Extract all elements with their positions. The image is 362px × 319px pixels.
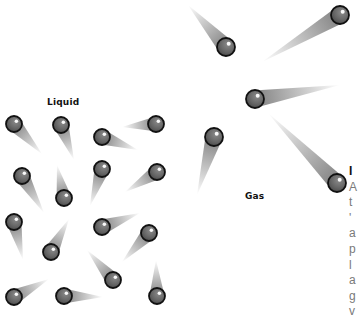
liquid-particle bbox=[56, 165, 72, 206]
liquid-particle bbox=[94, 129, 138, 150]
highlight-glint bbox=[338, 178, 342, 182]
side-line: l bbox=[349, 258, 362, 274]
particle-ball bbox=[246, 90, 264, 108]
side-heading: I bbox=[349, 164, 362, 180]
liquid-particle bbox=[56, 288, 103, 304]
gas-particle bbox=[246, 85, 340, 108]
liquid-particle bbox=[14, 168, 44, 213]
particle-ball bbox=[56, 190, 72, 206]
particle-ball bbox=[53, 117, 69, 133]
highlight-glint bbox=[158, 167, 162, 171]
highlight-glint bbox=[103, 164, 107, 168]
highlight-glint bbox=[157, 119, 161, 123]
highlight-glint bbox=[227, 42, 231, 46]
liquid-particle bbox=[43, 219, 69, 260]
liquid-particles bbox=[6, 116, 165, 305]
particle-ball bbox=[14, 168, 30, 184]
liquid-particle bbox=[6, 279, 49, 305]
liquid-label: Liquid bbox=[47, 97, 79, 107]
highlight-glint bbox=[103, 132, 107, 136]
highlight-glint bbox=[62, 120, 66, 124]
gas-label: Gas bbox=[245, 191, 264, 201]
gas-particles bbox=[188, 5, 349, 195]
particle-ball bbox=[94, 161, 110, 177]
side-line: t bbox=[349, 195, 362, 211]
highlight-glint bbox=[15, 217, 19, 221]
side-description-text: I A t ' a p l a g v bbox=[349, 164, 362, 319]
highlight-glint bbox=[158, 291, 162, 295]
particle-ball bbox=[6, 116, 22, 132]
particle-ball bbox=[331, 6, 349, 24]
liquid-particle bbox=[122, 225, 157, 262]
highlight-glint bbox=[103, 222, 107, 226]
highlight-glint bbox=[52, 247, 56, 251]
particle-ball bbox=[94, 129, 110, 145]
liquid-particle bbox=[87, 250, 121, 288]
particle-ball bbox=[149, 164, 165, 180]
gas-particle bbox=[262, 6, 349, 62]
highlight-glint bbox=[65, 291, 69, 295]
particle-ball bbox=[217, 38, 235, 56]
liquid-particle bbox=[122, 116, 164, 132]
liquid-particle bbox=[94, 213, 140, 235]
highlight-glint bbox=[15, 292, 19, 296]
particle-ball bbox=[43, 244, 59, 260]
side-line: a bbox=[349, 273, 362, 289]
liquid-particle bbox=[90, 161, 110, 206]
highlight-glint bbox=[256, 94, 260, 98]
motion-trail bbox=[254, 85, 340, 107]
particle-ball bbox=[105, 272, 121, 288]
liquid-particle bbox=[6, 116, 42, 154]
liquid-particle bbox=[149, 260, 165, 304]
highlight-glint bbox=[15, 119, 19, 123]
liquid-particle bbox=[6, 214, 23, 260]
particle-ball bbox=[56, 288, 72, 304]
gas-particle bbox=[197, 128, 223, 195]
highlight-glint bbox=[114, 275, 118, 279]
highlight-glint bbox=[150, 228, 154, 232]
particle-ball bbox=[94, 219, 110, 235]
particle-ball bbox=[205, 128, 223, 146]
particle-ball bbox=[6, 289, 22, 305]
highlight-glint bbox=[215, 132, 219, 136]
highlight-glint bbox=[341, 10, 345, 14]
side-line: a bbox=[349, 226, 362, 242]
liquid-particle bbox=[53, 117, 74, 160]
gas-particle bbox=[188, 5, 235, 56]
side-line: A bbox=[349, 180, 362, 196]
side-line: p bbox=[349, 242, 362, 258]
side-line: ' bbox=[349, 211, 362, 227]
side-line: v bbox=[349, 304, 362, 319]
highlight-glint bbox=[23, 171, 27, 175]
side-link[interactable]: g bbox=[349, 289, 362, 305]
gas-particle bbox=[268, 113, 346, 192]
particle-ball bbox=[141, 225, 157, 241]
particle-ball bbox=[149, 288, 165, 304]
highlight-glint bbox=[65, 193, 69, 197]
particle-ball bbox=[148, 116, 164, 132]
liquid-particle bbox=[125, 164, 165, 192]
particle-ball bbox=[328, 174, 346, 192]
particle-ball bbox=[6, 214, 22, 230]
